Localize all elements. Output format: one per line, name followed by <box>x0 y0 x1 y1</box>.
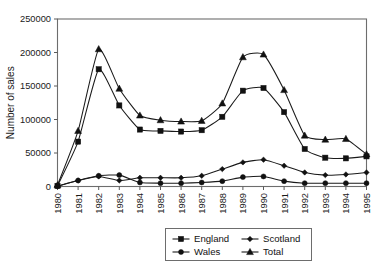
marker-circle <box>158 181 163 186</box>
marker-square <box>282 110 287 115</box>
marker-circle <box>220 179 225 184</box>
x-tick-label: 1982 <box>94 193 104 214</box>
marker-circle <box>364 181 369 186</box>
marker-circle <box>96 173 101 178</box>
marker-square <box>96 67 101 72</box>
x-tick-label: 1992 <box>300 193 310 214</box>
x-tick-label: 1989 <box>238 193 248 214</box>
marker-circle <box>323 181 328 186</box>
x-tick-label: 1987 <box>197 193 207 214</box>
marker-circle <box>240 175 245 180</box>
y-tick-label: 150000 <box>20 81 51 91</box>
x-tick-label: 1983 <box>115 193 125 214</box>
x-tick-label: 1986 <box>177 193 187 214</box>
marker-square <box>323 155 328 160</box>
x-tick-label: 1994 <box>341 193 351 214</box>
legend-item-label: England <box>194 233 229 244</box>
marker-square <box>117 103 122 108</box>
y-tick-label: 200000 <box>20 48 51 58</box>
marker-circle <box>179 250 184 255</box>
marker-circle <box>179 181 184 186</box>
y-tick-label: 50000 <box>25 148 51 158</box>
legend-item-label: Total <box>263 246 283 257</box>
series-england <box>55 67 369 189</box>
marker-triangle <box>219 100 226 106</box>
marker-circle <box>282 179 287 184</box>
marker-circle <box>343 181 348 186</box>
x-tick-label: 1993 <box>321 193 331 214</box>
marker-circle <box>76 178 81 183</box>
x-tick-label: 1990 <box>259 193 269 214</box>
y-tick-label: 250000 <box>20 14 51 24</box>
marker-diamond <box>343 172 348 177</box>
y-tick-label: 0 <box>46 182 51 192</box>
chart-figure: 050000100000150000200000250000Number of … <box>0 0 379 266</box>
series-scotland <box>55 157 369 189</box>
marker-square <box>137 127 142 132</box>
marker-square <box>199 128 204 133</box>
x-tick-label: 1985 <box>156 193 166 214</box>
marker-diamond <box>302 170 307 175</box>
marker-square <box>261 85 266 90</box>
marker-diamond <box>261 157 266 162</box>
x-tick-label: 1995 <box>362 193 372 214</box>
marker-triangle <box>281 86 288 92</box>
marker-diamond <box>323 172 328 177</box>
marker-square <box>178 236 183 241</box>
x-tick-label: 1980 <box>53 193 63 214</box>
marker-diamond <box>137 175 142 180</box>
marker-square <box>302 146 307 151</box>
marker-square <box>179 129 184 134</box>
x-tick-label: 1981 <box>74 193 84 214</box>
marker-diamond <box>199 173 204 178</box>
marker-circle <box>261 174 266 179</box>
plot-area-frame <box>58 19 367 187</box>
marker-circle <box>302 181 307 186</box>
y-tick-label: 100000 <box>20 115 51 125</box>
marker-square <box>220 114 225 119</box>
marker-square <box>343 156 348 161</box>
marker-triangle <box>301 132 308 138</box>
marker-diamond <box>178 175 183 180</box>
marker-triangle <box>260 51 267 57</box>
legend-item-label: Wales <box>194 246 221 257</box>
marker-circle <box>117 173 122 178</box>
marker-circle <box>199 180 204 185</box>
y-axis-title: Number of sales <box>5 66 16 139</box>
marker-square <box>158 128 163 133</box>
x-tick-label: 1991 <box>280 193 290 214</box>
marker-diamond <box>240 160 245 165</box>
marker-triangle <box>95 46 102 52</box>
marker-circle <box>137 180 142 185</box>
marker-triangle <box>116 85 123 91</box>
marker-diamond <box>220 166 225 171</box>
marker-triangle <box>75 127 82 133</box>
line-chart: 050000100000150000200000250000Number of … <box>0 0 379 266</box>
marker-diamond <box>117 178 122 183</box>
series-line <box>58 49 367 185</box>
marker-square <box>76 139 81 144</box>
x-axis-ticks: 1980198119821983198419851986198719881989… <box>53 187 372 214</box>
series-line <box>58 175 367 186</box>
marker-diamond <box>158 175 163 180</box>
y-axis-ticks: 050000100000150000200000250000 <box>20 14 58 192</box>
chart-legend: EnglandScotlandWalesTotal <box>166 229 312 261</box>
marker-diamond <box>281 163 286 168</box>
marker-square <box>240 88 245 93</box>
x-tick-label: 1984 <box>135 193 145 214</box>
marker-triangle <box>239 54 246 60</box>
marker-triangle <box>198 117 205 123</box>
x-tick-label: 1988 <box>218 193 228 214</box>
series-line <box>58 69 367 186</box>
legend-item-label: Scotland <box>263 233 300 244</box>
marker-diamond <box>364 170 369 175</box>
